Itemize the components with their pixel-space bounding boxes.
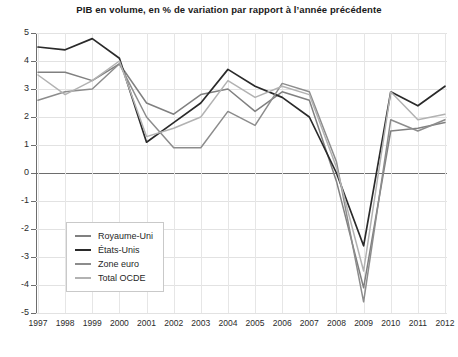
y-axis-tick-label: 5	[5, 27, 29, 37]
x-axis-tick-label: 2000	[110, 318, 129, 328]
legend-item-label: Zone euro	[98, 259, 139, 269]
x-axis-tick-label: 2002	[164, 318, 183, 328]
legend-color-swatch	[75, 277, 91, 280]
x-axis-tick-label: 2008	[327, 318, 346, 328]
x-axis-tick-label: 2010	[381, 318, 400, 328]
x-axis-tick-label: 2001	[137, 318, 156, 328]
horizontal-gridline	[36, 313, 447, 314]
gdp-growth-line-chart: PIB en volume, en % de variation par rap…	[0, 0, 458, 357]
x-axis-tick-label: 2006	[273, 318, 292, 328]
x-axis-tick-label: 2005	[246, 318, 265, 328]
y-axis-tick-label: 0	[5, 167, 29, 177]
y-axis-tick-label: 2	[5, 111, 29, 121]
series-line	[38, 39, 445, 246]
y-axis-tick-label: -2	[5, 223, 29, 233]
legend-item[interactable]: Royaume-Uni	[75, 229, 153, 243]
legend-item[interactable]: États-Unis	[75, 243, 153, 257]
x-axis-tick-label: 2003	[191, 318, 210, 328]
y-axis-tick-label: -4	[5, 279, 29, 289]
legend-item-label: Royaume-Uni	[98, 231, 153, 241]
legend-color-swatch	[75, 249, 91, 252]
y-axis-tick-label: -3	[5, 251, 29, 261]
x-axis-tick-label: 2004	[218, 318, 237, 328]
legend-item-label: Total OCDE	[98, 273, 146, 283]
y-axis-tick-label: -1	[5, 195, 29, 205]
x-axis-tick-label: 1997	[29, 318, 48, 328]
x-axis-tick-label: 2007	[300, 318, 319, 328]
x-axis-tick-label: 2012	[436, 318, 455, 328]
y-axis-tick-label: 4	[5, 55, 29, 65]
legend-item[interactable]: Total OCDE	[75, 271, 153, 285]
x-axis-tick-label: 2011	[409, 318, 427, 328]
x-axis-tick-label: 1998	[56, 318, 75, 328]
legend-item[interactable]: Zone euro	[75, 257, 153, 271]
legend-color-swatch	[75, 235, 91, 238]
chart-legend: Royaume-UniÉtats-UnisZone euroTotal OCDE	[66, 222, 164, 292]
legend-color-swatch	[75, 263, 91, 266]
legend-item-label: États-Unis	[98, 245, 140, 255]
y-axis-tick-label: 1	[5, 139, 29, 149]
x-axis-labels: 1997199819992000200120022003200420052006…	[36, 316, 447, 336]
y-axis-labels: 543210-1-2-3-4-5	[0, 0, 29, 357]
y-axis-tick-label: -5	[5, 307, 29, 317]
y-axis-tick-label: 3	[5, 83, 29, 93]
x-axis-tick-label: 2009	[354, 318, 373, 328]
x-axis-tick-label: 1999	[83, 318, 102, 328]
chart-title: PIB en volume, en % de variation par rap…	[0, 4, 458, 15]
